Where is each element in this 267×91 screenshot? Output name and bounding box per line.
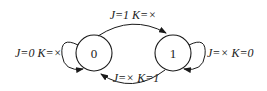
self-loop-1-arrow bbox=[184, 42, 205, 69]
self-loop-0-arrow bbox=[62, 42, 83, 69]
state-0-label: 0 bbox=[91, 46, 98, 61]
transition-1-to-0-label: J=× K=1 bbox=[113, 71, 160, 85]
self-loop-0-label: J=0 K=× bbox=[15, 46, 62, 60]
state-1-label: 1 bbox=[170, 46, 177, 61]
diagram-svg: 0 1 J=1 K=× J=× K=1 J=0 K=× J=× K=0 bbox=[0, 0, 267, 91]
transition-0-to-1-arrow bbox=[98, 24, 166, 36]
self-loop-1-label: J=× K=0 bbox=[207, 46, 254, 60]
transition-0-to-1-label: J=1 K=× bbox=[110, 8, 157, 22]
jk-flipflop-state-diagram: 0 1 J=1 K=× J=× K=1 J=0 K=× J=× K=0 bbox=[0, 0, 267, 91]
